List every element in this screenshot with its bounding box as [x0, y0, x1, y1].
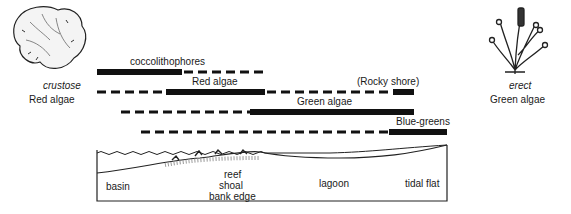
- zone-lagoon: lagoon: [319, 178, 349, 189]
- blue-greens-bar-label: Blue-greens: [396, 116, 450, 127]
- crustose-label: crustose: [43, 80, 81, 91]
- red-algae-bar-label: Red algae: [192, 76, 238, 87]
- zone-reef: reef: [224, 169, 241, 180]
- coccolithophores-label: coccolithophores: [130, 56, 205, 67]
- red-algae-figure-label: Red algae: [29, 94, 75, 105]
- green-algae-figure-label: Green algae: [490, 94, 545, 105]
- crustose-red-algae-illustration: [14, 7, 86, 69]
- diagram-canvas: [0, 0, 571, 214]
- erect-label: erect: [509, 80, 531, 91]
- green-algae-bar-label: Green algae: [297, 96, 352, 107]
- zone-bank-edge: bank edge: [209, 191, 256, 202]
- cross-section: [97, 145, 447, 201]
- zone-basin: basin: [106, 181, 130, 192]
- zone-tidal-flat: tidal flat: [405, 178, 439, 189]
- rocky-shore-note: (Rocky shore): [357, 76, 419, 87]
- zone-shoal: shoal: [219, 180, 243, 191]
- erect-green-algae-illustration: [490, 8, 548, 74]
